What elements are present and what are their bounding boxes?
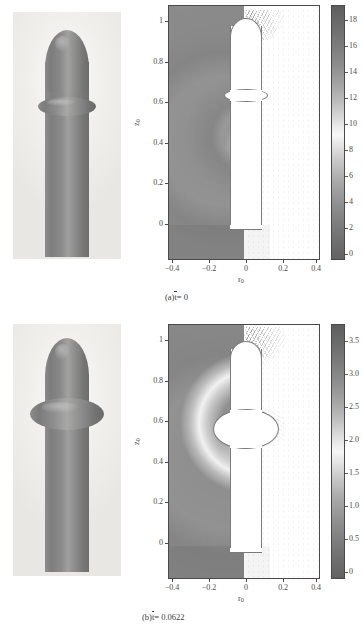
obstacle-base-a <box>230 225 262 230</box>
colorbar-tick-a-5 <box>345 124 348 125</box>
colorbar-b <box>331 324 345 579</box>
colorbar-tick-a-4 <box>345 150 348 151</box>
colorbar-label-a-3: 6 <box>349 171 353 180</box>
colorbar-tick-b-6 <box>345 374 348 375</box>
colorbar-tick-a-9 <box>345 20 348 21</box>
ytick-a-0 <box>165 224 168 225</box>
colorbar-label-a-7: 14 <box>349 67 357 76</box>
colorbar-label-a-6: 12 <box>349 93 357 102</box>
contour-plot-b <box>168 324 320 579</box>
xtick-b-0 <box>172 579 173 582</box>
colorbar-label-a-0: 0 <box>349 249 353 258</box>
colorbar-tick-b-4 <box>345 440 348 441</box>
xtick-label-b-2: 0 <box>231 583 261 592</box>
colorbar-tick-b-7 <box>345 341 348 342</box>
caption-prefix-b: (b) <box>142 612 152 622</box>
ytick-label-b-2: 0.4 <box>143 457 163 466</box>
caption-eq-a: = 0 <box>177 292 188 302</box>
obstacle-ring-fill-a <box>230 90 262 101</box>
quiver-bottom-shade-a <box>244 225 270 259</box>
colorbar-label-b-0: 0 <box>349 567 353 576</box>
colorbar-label-b-6: 3.0 <box>349 369 359 378</box>
ytick-a-5 <box>165 21 168 22</box>
colorbar-label-b-1: 0.5 <box>349 534 359 543</box>
ytick-label-b-1: 0.2 <box>143 497 163 506</box>
xaxis-title-b: r0 <box>238 593 244 603</box>
projectile-3d-render-b <box>13 324 121 576</box>
projectile-3d-render-a <box>13 12 121 259</box>
yaxis-title-b: z0 <box>131 438 141 445</box>
projectile-ring-b <box>30 398 104 430</box>
colorbar-label-a-4: 8 <box>349 145 353 154</box>
colorbar-label-a-2: 4 <box>349 197 353 206</box>
caption-prefix-a: (a) <box>165 292 174 302</box>
ytick-label-a-2: 0.4 <box>143 138 163 147</box>
colorbar-label-a-5: 10 <box>349 119 357 128</box>
xtick-label-a-2: 0 <box>231 264 261 273</box>
xtick-b-2 <box>246 579 247 582</box>
xtick-label-a-1: −0.2 <box>194 264 224 273</box>
ytick-label-b-4: 0.8 <box>143 376 163 385</box>
contour-bottom-wedge-a <box>169 225 244 259</box>
contour-plot-a <box>168 5 320 260</box>
caption-a: (a)t= 0 <box>165 292 188 302</box>
colorbar-tick-a-2 <box>345 202 348 203</box>
colorbar-tick-a-1 <box>345 228 348 229</box>
colorbar-tick-b-1 <box>345 539 348 540</box>
ytick-label-a-4: 0.8 <box>143 57 163 66</box>
ytick-a-3 <box>165 102 168 103</box>
xtick-b-1 <box>209 579 210 582</box>
yaxis-title-var-b: z <box>131 441 141 445</box>
ytick-label-b-0: 0 <box>154 538 163 547</box>
ytick-a-2 <box>165 143 168 144</box>
colorbar-tick-b-2 <box>345 506 348 507</box>
ytick-label-a-1: 0.2 <box>143 178 163 187</box>
colorbar-tick-a-8 <box>345 46 348 47</box>
yaxis-title-a: z0 <box>131 119 141 126</box>
obstacle-shaft-b <box>230 349 262 553</box>
ytick-b-5 <box>165 340 168 341</box>
ytick-label-b-3: 0.6 <box>143 416 163 425</box>
yaxis-title-var-a: z <box>131 122 141 126</box>
ytick-b-2 <box>165 462 168 463</box>
obstacle-nose-a <box>230 18 262 50</box>
xtick-a-3 <box>283 260 284 263</box>
ytick-b-3 <box>165 421 168 422</box>
obstacle-ring-fill-b <box>230 410 262 448</box>
ytick-a-4 <box>165 62 168 63</box>
yaxis-title-sub-a: 0 <box>134 119 141 122</box>
xtick-a-4 <box>316 260 317 263</box>
colorbar-tick-a-6 <box>345 98 348 99</box>
colorbar-label-a-8: 16 <box>349 41 357 50</box>
xaxis-title-sub-a: 0 <box>241 277 244 284</box>
colorbar-tick-b-5 <box>345 407 348 408</box>
obstacle-base-b <box>230 548 262 553</box>
colorbar-a <box>331 5 345 260</box>
xtick-a-2 <box>246 260 247 263</box>
ytick-label-a-3: 0.6 <box>143 97 163 106</box>
xaxis-title-sub-b: 0 <box>241 596 244 603</box>
ytick-a-1 <box>165 183 168 184</box>
yaxis-title-sub-b: 0 <box>134 438 141 441</box>
ytick-b-1 <box>165 502 168 503</box>
figure-panel-b: 0 0.2 0.4 0.6 0.8 1 z0 −0.4 −0.2 0 0.2 0… <box>0 314 363 628</box>
colorbar-tick-a-3 <box>345 176 348 177</box>
xtick-label-b-1: −0.2 <box>194 583 224 592</box>
projectile-ring-a <box>38 97 96 116</box>
figure-panel-a: 0 0.2 0.4 0.6 0.8 1 z0 −0.4 −0.2 0 0.2 0… <box>0 0 363 314</box>
colorbar-label-b-7: 3.5 <box>349 336 359 345</box>
xaxis-title-a: r0 <box>238 274 244 284</box>
colorbar-label-b-3: 1.5 <box>349 468 359 477</box>
ytick-label-a-5: 1 <box>154 16 163 25</box>
caption-eq-b: = 0.0622 <box>154 612 184 622</box>
colorbar-label-a-9: 18 <box>349 15 357 24</box>
caption-var-a: t <box>174 292 176 302</box>
colorbar-label-b-4: 2.0 <box>349 435 359 444</box>
xtick-b-4 <box>316 579 317 582</box>
colorbar-label-b-5: 2.5 <box>349 402 359 411</box>
colorbar-tick-b-3 <box>345 473 348 474</box>
ytick-b-0 <box>165 543 168 544</box>
ytick-label-a-0: 0 <box>154 219 163 228</box>
xtick-label-a-4: 0.4 <box>301 264 331 273</box>
xtick-label-a-0: −0.4 <box>157 264 187 273</box>
